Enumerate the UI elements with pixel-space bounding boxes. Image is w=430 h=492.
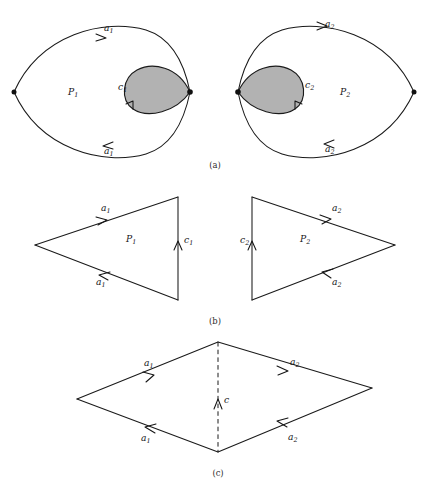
vertex-left-a-right-lens (235, 89, 241, 95)
label-a1-lower-panel-c: a1 (141, 432, 151, 445)
triangle-edge-a1-top (35, 197, 178, 245)
panel-c-rhombus: a1 a1 a2 a2 c (77, 342, 372, 452)
caption-panel-a: (a) (209, 160, 221, 170)
triangle-edge-a2-top (252, 197, 395, 245)
label-a2-top-panel-b: a2 (332, 202, 342, 215)
caption-panel-c: (c) (212, 468, 223, 478)
arrowhead-c-a1-upper (143, 372, 154, 382)
shaded-blob-c1 (124, 66, 190, 113)
label-a2-bottom-panel-b: a2 (332, 276, 342, 289)
label-P1-panel-b: P1 (125, 233, 136, 246)
vertex-left-a (12, 90, 17, 95)
arrowhead-c-a2-upper (277, 366, 288, 375)
label-P2-panel-b: P2 (299, 233, 310, 246)
topology-figure-svg: P1 a1 a1 c1 P2 a2 a2 c2 (a) (0, 0, 430, 492)
caption-panel-b: (b) (209, 316, 221, 326)
label-c2-panel-b: c2 (240, 234, 249, 247)
label-c2-panel-a: c2 (305, 79, 314, 92)
label-a1-upper-panel-c: a1 (144, 357, 154, 370)
panel-a-left-lens: P1 a1 a1 c1 (12, 22, 193, 158)
shaded-blob-c2 (238, 66, 304, 113)
label-a2-lower-panel-c: a2 (288, 431, 298, 444)
label-a2-upper-panel-c: a2 (290, 356, 300, 369)
rhombus-edge-a1-upper (77, 342, 218, 399)
panel-a-right-lens: P2 a2 a2 c2 (235, 18, 416, 158)
panel-b-right-triangle: P2 a2 a2 c2 (240, 197, 395, 300)
label-a1-top-panel-b: a1 (101, 202, 111, 215)
figure-container: P1 a1 a1 c1 P2 a2 a2 c2 (a) (0, 0, 430, 492)
label-a1-top-panel-a: a1 (104, 22, 114, 35)
vertex-right-a-right-lens (412, 90, 417, 95)
label-a1-bottom-panel-a: a1 (104, 145, 114, 158)
arrowhead-a1-top (96, 34, 106, 41)
label-P2-panel-a: P2 (339, 86, 350, 99)
label-P1-panel-a: P1 (67, 86, 78, 99)
vertex-right-a (187, 89, 193, 95)
label-a2-bottom-panel-a: a2 (325, 143, 335, 156)
label-a2-top-panel-a: a2 (325, 18, 335, 31)
panel-b-left-triangle: P1 a1 a1 c1 (35, 197, 193, 300)
label-c-diagonal-panel-c: c (224, 394, 229, 405)
label-c1-panel-b: c1 (184, 234, 193, 247)
